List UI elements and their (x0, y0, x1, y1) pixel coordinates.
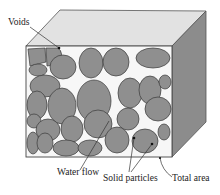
solid-particles-label: Solid particles (103, 174, 158, 184)
soil-block-diagram (0, 0, 220, 195)
water-flow-label: Water flow (57, 168, 99, 178)
total-area-label: Total area (172, 174, 210, 184)
voids-label: Voids (8, 18, 29, 28)
total-area-leader (160, 158, 172, 177)
